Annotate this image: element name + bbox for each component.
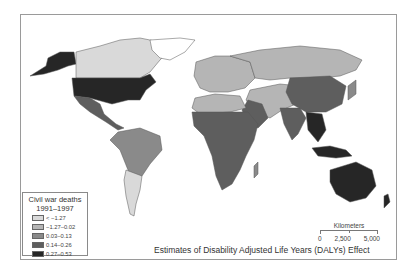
legend-item: −1.27–0.02 — [32, 222, 84, 231]
legend-swatch — [32, 233, 44, 239]
scale-bar: Kilometers 0 2,500 5,000 — [318, 222, 380, 242]
scale-tick: 5,000 — [364, 235, 380, 242]
region-indonesia — [312, 146, 352, 158]
region-india — [280, 108, 306, 140]
region-europe — [194, 56, 255, 92]
legend-item: 0.03–0.13 — [32, 231, 84, 240]
legend-item: < −1.27 — [32, 213, 84, 222]
region-australia — [330, 162, 376, 202]
scale-bar-title: Kilometers — [318, 222, 380, 229]
legend: Civil war deaths 1991–1997 < −1.27 −1.27… — [22, 192, 88, 256]
legend-label: −1.27–0.02 — [46, 224, 75, 230]
legend-label: 0.27–0.53 — [46, 251, 72, 257]
region-north-africa — [192, 94, 246, 114]
region-japan — [348, 80, 356, 100]
scale-bar-line — [320, 230, 378, 234]
region-africa — [192, 112, 258, 190]
legend-swatch — [32, 215, 44, 221]
legend-subtitle: 1991–1997 — [26, 204, 84, 213]
legend-swatch — [32, 224, 44, 230]
legend-swatch — [32, 242, 44, 248]
legend-item: 0.27–0.53 — [32, 249, 84, 258]
region-alaska — [30, 52, 76, 76]
scale-tick: 0 — [318, 235, 322, 242]
region-china — [286, 76, 346, 112]
region-new-zealand — [384, 194, 390, 208]
legend-label: 0.14–0.26 — [46, 242, 72, 248]
legend-swatch — [32, 251, 44, 257]
legend-label: < −1.27 — [46, 215, 66, 221]
legend-label: 0.03–0.13 — [46, 233, 72, 239]
region-madagascar — [254, 162, 258, 178]
region-argentina-chile — [124, 170, 142, 216]
legend-title: Civil war deaths — [26, 195, 84, 204]
legend-item: 0.14–0.26 — [32, 240, 84, 249]
scale-tick: 2,500 — [335, 235, 351, 242]
region-southeast-asia — [306, 112, 326, 142]
map-caption: Estimates of Disability Adjusted Life Ye… — [154, 245, 370, 255]
